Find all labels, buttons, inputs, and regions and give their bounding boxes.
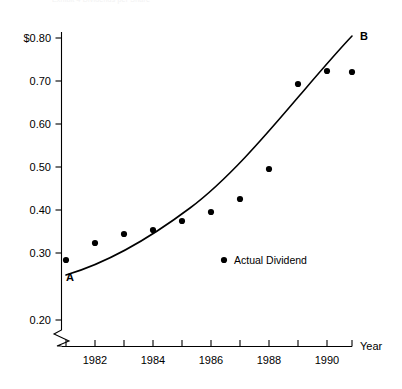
data-point [266,166,272,172]
legend-marker-icon [221,257,227,263]
y-axis: $0.80 0.70 0.60 0.50 0.40 0.30 0.20 [23,32,69,346]
data-point [349,69,355,75]
actual-dividend-points [63,68,355,263]
legend-label-actual-dividend: Actual Dividend [234,254,307,266]
data-point [63,257,69,263]
y-tick-label-060: 0.60 [30,118,51,130]
x-tick-label-1990: 1990 [315,354,339,366]
data-point [150,227,156,233]
trend-line-a-to-b [66,36,352,275]
data-point [121,231,127,237]
x-tick-label-1982: 1982 [83,354,107,366]
chart-canvas: $0.80 0.70 0.60 0.50 0.40 0.30 0.20 1982… [0,0,402,389]
trend-curve-series: A B [66,30,368,283]
point-b-label: B [360,30,368,42]
y-tick-label-080: $0.80 [23,32,51,44]
x-axis-title: Year [360,340,383,352]
chart-legend: Actual Dividend [221,254,307,266]
point-a-label: A [66,271,74,283]
y-tick-label-040: 0.40 [30,204,51,216]
data-point [179,218,185,224]
data-point [295,81,301,87]
dividend-trend-chart: Exhibit 4 Dividends per Share $0.80 0.70… [0,0,402,389]
y-axis-break-icon [54,324,69,346]
y-tick-label-050: 0.50 [30,161,51,173]
y-tick-label-020: 0.20 [30,314,51,326]
data-point [237,196,243,202]
x-tick-label-1986: 1986 [199,354,223,366]
y-tick-label-030: 0.30 [30,247,51,259]
data-point [208,209,214,215]
data-point [324,68,330,74]
data-point [92,240,98,246]
y-tick-label-070: 0.70 [30,75,51,87]
x-axis: 1982 1984 1986 1988 1990 Year [62,340,383,366]
x-tick-label-1988: 1988 [257,354,281,366]
x-tick-label-1984: 1984 [141,354,165,366]
